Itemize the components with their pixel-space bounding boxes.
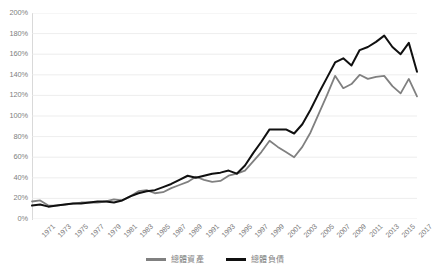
x-axis-tick-label: 2017 [416,222,433,239]
x-axis-tick-label: 1983 [138,222,155,239]
series-line-0 [32,75,417,206]
chart-legend: 總體資產總體負債 [0,252,430,267]
legend-label: 總體資產 [171,256,204,264]
x-axis-tick-label: 1997 [253,222,270,239]
x-axis-tick-label: 1995 [236,222,253,239]
x-axis: 1971197319751977197919811983198519871989… [32,220,417,256]
y-axis-tick-label: 120% [0,91,28,98]
x-axis-tick-label: 1993 [220,222,237,239]
series-lines [32,13,417,219]
legend-color-swatch [146,258,166,261]
legend-label: 總體負債 [251,256,284,264]
plot-area [32,13,417,219]
x-axis-tick-label: 1975 [72,222,89,239]
x-axis-tick-label: 2015 [400,222,417,239]
y-axis-tick-label: 180% [0,30,28,37]
x-axis-tick-label: 1979 [105,222,122,239]
y-axis: 200%180%160%140%120%100%80%60%40%20%0% [0,0,32,232]
x-axis-tick-label: 2005 [318,222,335,239]
x-axis-tick-label: 2011 [367,222,384,239]
x-axis-tick-label: 1985 [154,222,171,239]
y-axis-tick-label: 200% [0,9,28,16]
x-axis-tick-label: 2003 [302,222,319,239]
y-axis-tick-label: 80% [0,133,28,140]
series-line-1 [32,36,417,207]
y-axis-tick-label: 100% [0,112,28,119]
x-axis-tick-label: 2013 [384,222,401,239]
x-axis-tick-label: 1987 [171,222,188,239]
legend-item[interactable]: 總體負債 [226,256,284,264]
y-axis-tick-label: 0% [0,215,28,222]
y-axis-tick-label: 40% [0,174,28,181]
y-axis-tick-label: 160% [0,50,28,57]
x-axis-tick-label: 1991 [203,222,220,239]
y-axis-tick-label: 140% [0,71,28,78]
x-axis-tick-label: 1999 [269,222,286,239]
legend-item[interactable]: 總體資產 [146,256,204,264]
x-axis-tick-label: 2001 [285,222,302,239]
x-axis-tick-label: 1977 [89,222,106,239]
legend-color-swatch [226,258,246,261]
x-axis-tick-label: 1981 [121,222,138,239]
x-axis-tick-label: 2007 [334,222,351,239]
y-axis-tick-label: 20% [0,194,28,201]
x-axis-tick-label: 2009 [351,222,368,239]
x-axis-tick-label: 1971 [40,222,57,239]
x-axis-tick-label: 1973 [56,222,73,239]
x-axis-tick-label: 1989 [187,222,204,239]
y-axis-tick-label: 60% [0,153,28,160]
